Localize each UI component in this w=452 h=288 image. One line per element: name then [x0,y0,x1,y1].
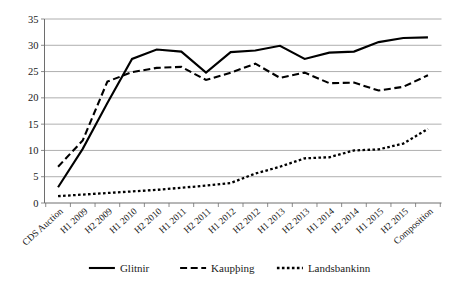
data-series [58,37,428,196]
x-axis: CDS AuctionH1 2009H2 2009H1 2010H2 2010H… [20,203,440,248]
legend-label-glitnir: Glitnir [120,262,150,274]
y-axis-tick-label: 30 [28,40,39,51]
y-axis-tick-label: 20 [28,92,39,103]
line-chart: 05101520253035 CDS AuctionH1 2009H2 2009… [0,0,452,288]
x-axis-tick-label: CDS Auction [20,206,65,248]
chart-legend: GlitnirKaupþingLandsbankinn [89,262,371,274]
series-line-glitnir [58,37,428,187]
y-axis-tick-label: 10 [28,145,39,156]
y-axis-tick-label: 35 [28,14,39,25]
y-axis-tick-label: 0 [33,198,38,209]
y-axis-tick-label: 25 [28,66,39,77]
y-axis: 05101520253035 [28,14,45,209]
legend-label-kaup-ing: Kaupþing [211,262,255,274]
legend-label-landsbankinn: Landsbankinn [308,262,371,274]
y-axis-tick-label: 5 [33,171,38,182]
y-axis-tick-label: 15 [28,119,39,130]
series-line-kaup-ing [58,64,428,167]
chart-canvas: 05101520253035 CDS AuctionH1 2009H2 2009… [0,0,452,288]
series-line-landsbankinn [58,129,428,196]
